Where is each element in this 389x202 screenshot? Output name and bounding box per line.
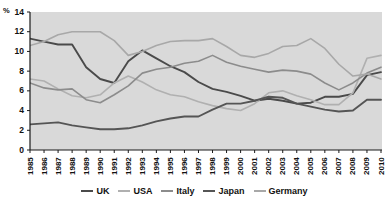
- x-axis-tick-label: 1996: [181, 157, 189, 175]
- y-axis-tick-label: 10: [4, 47, 24, 56]
- legend-item-italy[interactable]: Italy: [161, 186, 194, 196]
- series-line-usa: [30, 55, 381, 110]
- x-axis-tick-label: 1991: [111, 157, 119, 175]
- series-line-japan: [30, 97, 381, 130]
- legend-label: Italy: [176, 186, 194, 196]
- y-axis-tick-label: 14: [4, 8, 24, 17]
- x-axis-tick-label: 2010: [378, 157, 386, 175]
- x-axis-tick-label: 1985: [27, 157, 35, 175]
- x-axis-tick-label: 2006: [321, 157, 329, 175]
- legend-label: USA: [133, 186, 152, 196]
- legend-swatch-icon: [118, 190, 130, 192]
- x-axis-tick-label: 2002: [265, 157, 273, 175]
- legend-swatch-icon: [203, 190, 215, 192]
- x-axis-tick-label: 1994: [153, 157, 161, 175]
- x-axis-tick-label: 2007: [335, 157, 343, 175]
- x-axis-tick-label: 1990: [97, 157, 105, 175]
- y-axis-tick-label: 12: [4, 27, 24, 36]
- series-line-germany: [30, 32, 381, 79]
- legend-item-usa[interactable]: USA: [118, 186, 152, 196]
- legend-item-japan[interactable]: Japan: [203, 186, 244, 196]
- y-axis-tick-label: 2: [4, 126, 24, 135]
- x-axis-tick-label: 1997: [195, 157, 203, 175]
- x-axis-tick-label: 2003: [279, 157, 287, 175]
- x-axis-tick-label: 1988: [69, 157, 77, 175]
- series-line-uk: [30, 39, 381, 104]
- legend-swatch-icon: [161, 190, 173, 192]
- y-axis-tick-label: 0: [4, 146, 24, 155]
- legend-swatch-icon: [254, 190, 266, 192]
- legend-item-germany[interactable]: Germany: [254, 186, 308, 196]
- legend-swatch-icon: [81, 190, 93, 192]
- x-axis-tick-label: 2008: [349, 157, 357, 175]
- legend-label: UK: [96, 186, 109, 196]
- x-axis-tick-label: 2004: [293, 157, 301, 175]
- x-axis-tick-label: 1995: [167, 157, 175, 175]
- legend-label: Japan: [218, 186, 244, 196]
- chart-legend: UKUSAItalyJapanGermany: [0, 183, 389, 199]
- y-axis-tick-label: 8: [4, 67, 24, 76]
- legend-label: Germany: [269, 186, 308, 196]
- x-axis-tick-label: 1986: [41, 157, 49, 175]
- x-axis-tick-label: 1992: [125, 157, 133, 175]
- x-axis-tick-label: 1989: [83, 157, 91, 175]
- legend-item-uk[interactable]: UK: [81, 186, 109, 196]
- x-axis-tick-label: 1993: [139, 157, 147, 175]
- x-axis-tick-label: 2009: [363, 157, 371, 175]
- x-axis-tick-label: 2000: [237, 157, 245, 175]
- x-axis-tick-label: 2001: [251, 157, 259, 175]
- x-axis-tick-label: 1998: [209, 157, 217, 175]
- x-axis-tick-label: 1999: [223, 157, 231, 175]
- unemployment-rate-line-chart: % 02468101214 19851986198719881989199019…: [0, 0, 389, 202]
- y-axis-tick-label: 4: [4, 106, 24, 115]
- plot-area: [30, 12, 382, 150]
- x-axis-tick-label: 2005: [307, 157, 315, 175]
- x-axis-tick-label: 1987: [55, 157, 63, 175]
- series-canvas: [30, 12, 382, 150]
- y-axis-tick-label: 6: [4, 86, 24, 95]
